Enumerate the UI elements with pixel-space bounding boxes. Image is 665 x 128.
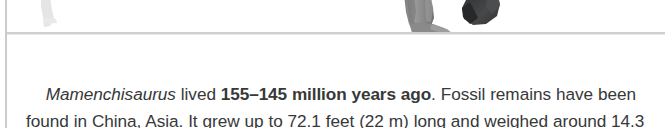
gray-leg-and-foot-icon [404,0,452,34]
faint-left-leg-icon [41,0,57,27]
time-period: 155–145 million years ago [221,84,431,104]
left-margin-rule [5,0,7,128]
fact-box-page: Mamenchisaurus lived 155–145 million yea… [0,0,665,128]
dinosaur-illustration [0,0,665,34]
horizontal-divider-shadow [7,34,665,35]
genus-name: Mamenchisaurus [46,84,176,104]
text-run-lived: lived [176,84,221,104]
fact-paragraph: Mamenchisaurus lived 155–145 million yea… [26,54,651,128]
text-run-fossil: . Fossil remains have [431,84,593,104]
dark-leg-icon [462,0,500,25]
